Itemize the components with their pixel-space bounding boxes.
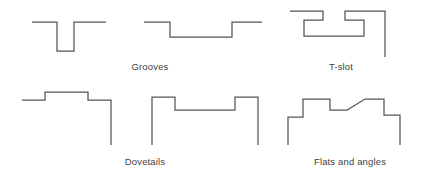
caption-dovetails: Dovetails — [125, 156, 166, 167]
wide-groove-outline — [144, 22, 262, 37]
profile-diagram-canvas: Grooves T-slot Dovetails Flats and angle… — [0, 0, 422, 176]
caption-flats-and-angles: Flats and angles — [314, 156, 386, 167]
t-slot-outline — [290, 11, 385, 57]
male-dovetail-outline — [22, 92, 111, 145]
machining-profiles-figure: Grooves T-slot Dovetails Flats and angle… — [0, 0, 422, 176]
caption-t-slot: T-slot — [329, 61, 353, 72]
female-dovetail-outline — [152, 97, 258, 145]
flats-and-angles-outline — [288, 99, 400, 145]
caption-grooves: Grooves — [132, 61, 169, 72]
narrow-groove-outline — [32, 22, 106, 51]
